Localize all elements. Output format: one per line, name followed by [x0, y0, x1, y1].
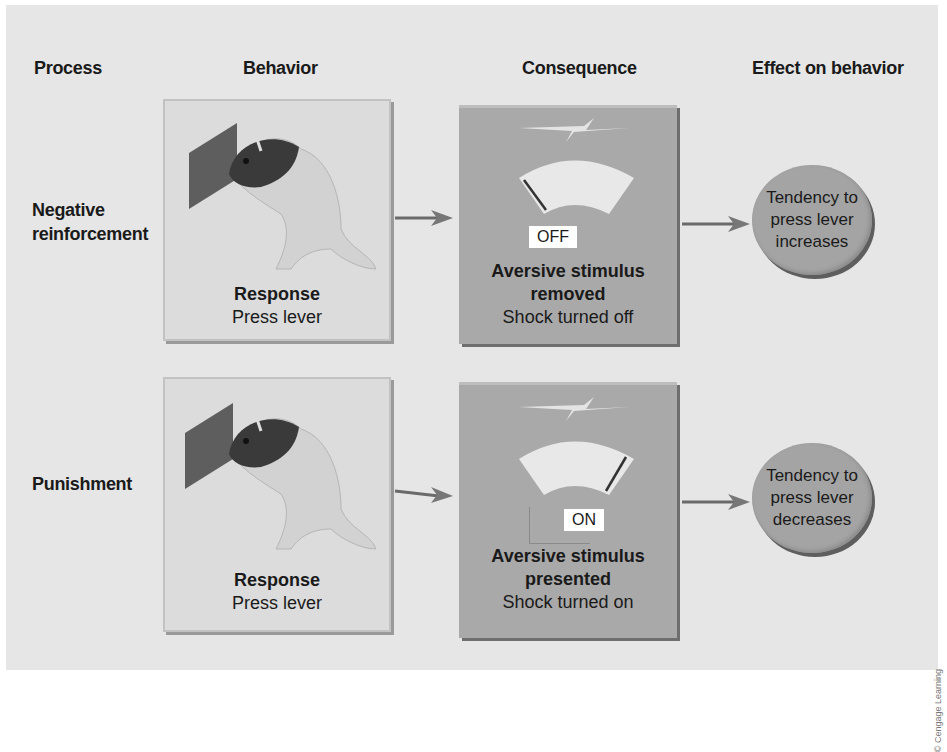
effect-ellipse-decreases: Tendency to press lever decreases: [752, 443, 872, 553]
row-label-punishment: Punishment: [32, 472, 132, 496]
header-effect: Effect on behavior: [752, 58, 904, 79]
consequence-title-line1: Aversive stimulus: [491, 261, 644, 281]
lightning-bolt-icon: [514, 116, 634, 146]
consequence-caption: Aversive stimulus presented Shock turned…: [459, 545, 677, 614]
rat-pressing-lever-icon: [201, 119, 381, 279]
switch-on-label: ON: [564, 509, 604, 531]
consequence-subtitle: Shock turned on: [459, 591, 677, 614]
gauge-icon: [514, 429, 639, 509]
header-behavior: Behavior: [243, 58, 318, 79]
header-consequence: Consequence: [522, 58, 637, 79]
consequence-title-line2: presented: [525, 569, 611, 589]
effect-line: decreases: [766, 509, 858, 531]
behavior-box-row2: Response Press lever: [163, 377, 391, 632]
behavior-subtitle: Press lever: [165, 306, 389, 329]
consequence-title-line1: Aversive stimulus: [491, 546, 644, 566]
gauge-icon: [514, 148, 639, 228]
consequence-caption: Aversive stimulus removed Shock turned o…: [459, 260, 677, 329]
behavior-caption: Response Press lever: [165, 283, 389, 329]
effect-ellipse-increases: Tendency to press lever increases: [752, 165, 872, 275]
copyright-notice: © Cengage Learning: [933, 669, 943, 752]
row-label-line: reinforcement: [32, 222, 148, 246]
consequence-title-line2: removed: [530, 284, 605, 304]
behavior-box-row1: Response Press lever: [163, 99, 391, 341]
arrow-right-icon: [680, 214, 752, 234]
row-label-line: Negative: [32, 198, 148, 222]
behavior-title: Response: [234, 284, 320, 304]
header-process: Process: [34, 58, 102, 79]
behavior-caption: Response Press lever: [165, 569, 389, 615]
behavior-title: Response: [234, 570, 320, 590]
arrow-right-icon: [393, 208, 455, 228]
rat-pressing-lever-icon: [201, 399, 381, 559]
consequence-subtitle: Shock turned off: [459, 306, 677, 329]
arrow-right-icon: [680, 492, 752, 512]
behavior-subtitle: Press lever: [165, 592, 389, 615]
effect-line: press lever: [766, 487, 858, 509]
effect-line: increases: [766, 231, 858, 253]
effect-line: Tendency to: [766, 187, 858, 209]
row-label-line: Punishment: [32, 472, 132, 496]
lightning-bolt-icon: [514, 395, 634, 425]
consequence-box-row2: ON Aversive stimulus presented Shock tur…: [459, 382, 677, 638]
effect-line: press lever: [766, 209, 858, 231]
consequence-box-row1: OFF Aversive stimulus removed Shock turn…: [459, 105, 677, 344]
switch-off-label: OFF: [529, 226, 577, 248]
effect-line: Tendency to: [766, 465, 858, 487]
row-label-negative-reinforcement: Negative reinforcement: [32, 198, 148, 246]
arrow-right-icon: [393, 484, 455, 504]
